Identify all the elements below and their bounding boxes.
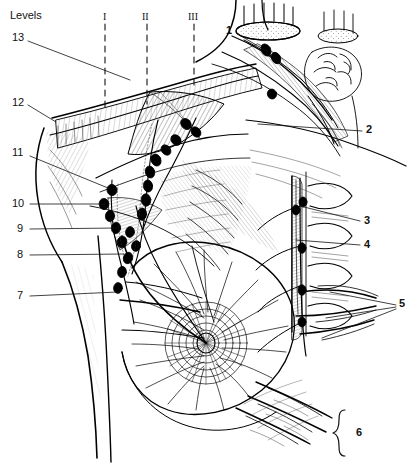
- callout-label-8: 8: [17, 249, 23, 260]
- level-marker-i: I: [103, 12, 106, 22]
- callout-label-13: 13: [12, 32, 24, 43]
- callout-label-11: 11: [12, 147, 23, 158]
- anatomical-illustration: [0, 0, 420, 464]
- level-marker-iii: III: [188, 12, 198, 22]
- callout-label-3: 3: [364, 215, 370, 226]
- callout-label-2: 2: [366, 124, 372, 135]
- levels-heading: Levels: [10, 10, 42, 21]
- callout-label-5: 5: [399, 298, 405, 309]
- callout-label-9: 9: [17, 223, 23, 234]
- callout-label-12: 12: [12, 97, 24, 108]
- level-marker-ii: II: [142, 12, 149, 22]
- callout-label-1: 1: [226, 25, 232, 36]
- callout-label-7: 7: [17, 290, 23, 301]
- figure-canvas: Levels I II III 1 2 3 4 5 6 7 8 9 10 11 …: [0, 0, 420, 464]
- callout-label-6: 6: [356, 427, 362, 438]
- callout-label-10: 10: [12, 198, 24, 209]
- callout-label-4: 4: [364, 239, 370, 250]
